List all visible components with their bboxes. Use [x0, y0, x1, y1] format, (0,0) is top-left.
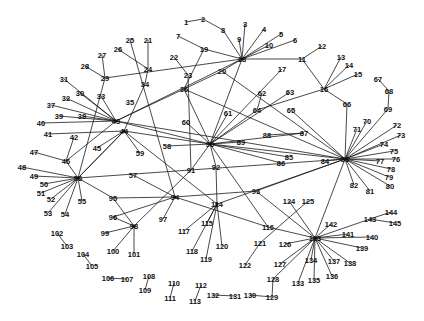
- node-label: 109: [139, 286, 152, 295]
- node-47: 47: [30, 148, 38, 157]
- node-10: 10: [265, 41, 273, 50]
- node-38: 38: [78, 112, 86, 121]
- node-label: 119: [200, 255, 212, 264]
- node-25: 25: [126, 36, 134, 45]
- edge-56-95: [78, 178, 113, 198]
- node-label: 3: [243, 20, 247, 29]
- node-90: 90: [206, 140, 214, 149]
- node-label: 84: [321, 157, 330, 166]
- node-label: 64: [253, 106, 262, 115]
- node-label: 104: [77, 250, 90, 259]
- node-42: 42: [70, 133, 78, 142]
- node-124: 124: [283, 197, 296, 206]
- node-126: 126: [279, 240, 292, 249]
- node-8: 8: [221, 26, 225, 35]
- node-label: 133: [292, 279, 305, 288]
- node-label: 59: [136, 149, 144, 158]
- node-89: 89: [237, 138, 245, 147]
- node-23: 23: [184, 71, 192, 80]
- node-49: 49: [30, 172, 38, 181]
- node-82: 82: [350, 181, 358, 190]
- node-label: 87: [300, 129, 308, 138]
- node-label: 94: [171, 193, 180, 202]
- node-label: 31: [60, 75, 68, 84]
- node-80: 80: [386, 182, 394, 191]
- node-label: 4: [262, 25, 267, 34]
- node-43: 43: [112, 117, 120, 126]
- node-123: 123: [309, 234, 322, 243]
- node-label: 115: [201, 219, 213, 228]
- node-label: 95: [109, 194, 117, 203]
- node-label: 122: [239, 261, 252, 270]
- node-label: 33: [97, 92, 105, 101]
- node-label: 126: [279, 240, 292, 249]
- node-label: 43: [112, 117, 120, 126]
- node-label: 8: [221, 26, 225, 35]
- node-label: 32: [62, 94, 70, 103]
- node-label: 132: [207, 291, 220, 300]
- node-141: 141: [342, 230, 355, 239]
- edge-64-90: [210, 110, 257, 144]
- node-41: 41: [44, 130, 52, 139]
- node-96: 96: [109, 213, 117, 222]
- node-116: 116: [262, 223, 274, 232]
- node-129: 129: [266, 293, 279, 302]
- node-71: 71: [353, 125, 361, 134]
- node-130: 130: [244, 291, 257, 300]
- node-137: 137: [328, 257, 341, 266]
- node-6: 6: [293, 36, 297, 45]
- node-125: 125: [302, 197, 315, 206]
- node-32: 32: [62, 94, 70, 103]
- node-56: 56: [74, 174, 82, 183]
- node-3: 3: [243, 20, 247, 29]
- node-127: 127: [274, 260, 287, 269]
- node-91: 91: [187, 166, 195, 175]
- node-label: 108: [143, 272, 156, 281]
- node-label: 112: [195, 281, 207, 290]
- node-35: 35: [126, 98, 134, 107]
- node-label: 50: [40, 180, 48, 189]
- node-label: 10: [265, 41, 273, 50]
- node-77: 77: [376, 157, 384, 166]
- edge-57-94: [133, 175, 175, 197]
- node-69: 69: [384, 105, 392, 114]
- node-label: 100: [107, 247, 120, 256]
- node-62: 62: [258, 89, 266, 98]
- node-19: 19: [200, 45, 208, 54]
- node-30: 30: [76, 89, 84, 98]
- node-label: 88: [263, 131, 271, 140]
- node-label: 1: [184, 18, 188, 27]
- node-58: 58: [163, 142, 171, 151]
- edge-5-18: [242, 34, 281, 59]
- node-label: 114: [211, 200, 224, 209]
- node-119: 119: [200, 255, 212, 264]
- node-label: 128: [267, 275, 280, 284]
- node-label: 103: [61, 242, 74, 251]
- node-36: 36: [180, 85, 188, 94]
- node-label: 98: [130, 222, 138, 231]
- node-7: 7: [176, 32, 180, 41]
- node-5: 5: [279, 30, 283, 39]
- edge-114-119: [206, 204, 217, 259]
- node-24: 24: [144, 65, 153, 74]
- node-label: 39: [55, 112, 63, 121]
- node-label: 45: [93, 144, 101, 153]
- node-label: 99: [101, 229, 109, 238]
- node-33: 33: [97, 92, 105, 101]
- node-label: 21: [144, 36, 152, 45]
- node-label: 61: [224, 109, 232, 118]
- node-128: 128: [267, 275, 280, 284]
- node-102: 102: [51, 229, 64, 238]
- node-122: 122: [239, 261, 252, 270]
- node-114: 114: [211, 200, 224, 209]
- node-label: 49: [30, 172, 38, 181]
- edge-43-83: [116, 121, 345, 159]
- node-34: 34: [141, 80, 150, 89]
- node-label: 81: [366, 187, 374, 196]
- node-45: 45: [93, 144, 101, 153]
- node-22: 22: [170, 53, 178, 62]
- node-label: 137: [328, 257, 341, 266]
- node-label: 79: [385, 173, 393, 182]
- node-label: 82: [350, 181, 358, 190]
- node-label: 26: [114, 45, 122, 54]
